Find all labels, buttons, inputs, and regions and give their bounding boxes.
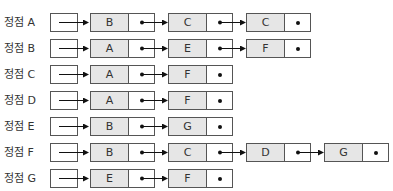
arrows-layer xyxy=(0,0,393,191)
